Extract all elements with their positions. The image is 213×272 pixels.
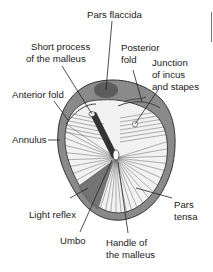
label-posterior-fold-2: fold: [121, 54, 136, 65]
label-light-reflex: Light reflex: [29, 209, 76, 220]
label-junction-2: of incus: [152, 69, 185, 80]
label-anterior-fold: Anterior fold: [12, 89, 64, 100]
label-handle: Handle of: [106, 237, 147, 248]
label-pars-tensa: Pars: [174, 199, 194, 210]
label-handle-2: the malleus: [106, 249, 155, 260]
label-umbo: Umbo: [60, 235, 86, 246]
label-junction-3: and stapes: [152, 81, 199, 92]
label-annulus: Annulus: [12, 134, 47, 145]
label-junction: Junction: [152, 57, 188, 68]
label-short-process: Short process: [31, 41, 90, 52]
label-short-process-2: of the malleus: [26, 53, 86, 64]
label-pars-flaccida: Pars flaccida: [87, 9, 143, 20]
label-pars-tensa-2: tensa: [174, 211, 198, 222]
umbo: [113, 150, 119, 160]
tympanic-membrane-diagram: Pars flaccida Short process of the malle…: [0, 0, 213, 272]
label-posterior-fold: Posterior: [121, 42, 160, 53]
